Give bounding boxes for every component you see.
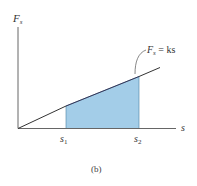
force-line-label: Fs = ks [146, 44, 175, 57]
figure-caption: (b) [91, 164, 102, 174]
label-leader-curve [135, 50, 146, 74]
tick-label-s1: s1 [60, 133, 68, 146]
x-axis-label: s [181, 122, 185, 133]
force-line-origin-segment [18, 106, 66, 129]
force-line-extension [139, 68, 160, 77]
y-axis-label: Fs [12, 12, 23, 26]
tick-label-s2: s2 [134, 133, 142, 146]
force-displacement-diagram: Fs s Fs = ks s1 s2 (b) [0, 0, 197, 186]
work-area-shaded [66, 77, 139, 129]
